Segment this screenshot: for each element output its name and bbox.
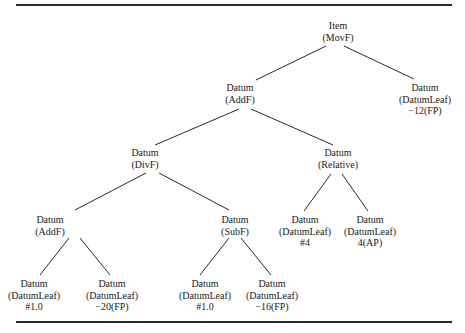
node-type: Datum	[380, 82, 465, 94]
node-datum-divf: Datum (DivF)	[100, 147, 190, 170]
node-datumleaf-4ap: Datum (DatumLeaf) 4(AP)	[325, 214, 415, 249]
node-type: Datum	[195, 82, 285, 94]
node-type: Datum	[227, 278, 317, 290]
edge-addf-relative	[251, 109, 333, 145]
node-class: (DatumLeaf)	[380, 94, 465, 106]
edge-relative-leaf-4	[304, 174, 331, 211]
edge-addf-divf	[155, 109, 239, 145]
edge-divf-subf	[159, 173, 229, 210]
node-type: Datum	[100, 147, 190, 159]
node-class: (Relative)	[293, 159, 383, 171]
node-type: Datum	[5, 214, 95, 226]
node-class: (DatumLeaf)	[227, 290, 317, 302]
node-class: (AddF)	[5, 226, 95, 238]
node-type: Datum	[67, 278, 157, 290]
node-datum-relative: Datum (Relative)	[293, 147, 383, 170]
node-value: −12(FP)	[380, 105, 465, 117]
node-datum-addf: Datum (AddF)	[195, 82, 285, 105]
node-class: (DivF)	[100, 159, 190, 171]
node-class: (AddF)	[195, 94, 285, 106]
node-class: (DatumLeaf)	[67, 290, 157, 302]
node-datumleaf-minus16fp: Datum (DatumLeaf) −16(FP)	[227, 278, 317, 313]
node-type: Item	[293, 20, 383, 32]
edge-addf-leaf-20fp	[80, 238, 110, 275]
node-type: Datum	[325, 214, 415, 226]
node-class: (MovF)	[293, 32, 383, 44]
edge-divf-addf	[75, 173, 146, 210]
node-value: −16(FP)	[227, 301, 317, 313]
node-item-movf: Item (MovF)	[293, 20, 383, 43]
node-value: −20(FP)	[67, 301, 157, 313]
edge-addf-leaf-1	[40, 238, 69, 275]
node-type: Datum	[293, 147, 383, 159]
node-datum-addf-inner: Datum (AddF)	[5, 214, 95, 237]
node-datumleaf-minus20fp: Datum (DatumLeaf) −20(FP)	[67, 278, 157, 313]
node-datumleaf-minus12fp: Datum (DatumLeaf) −12(FP)	[380, 82, 465, 117]
edge-movf-leaf-12fp	[344, 46, 414, 79]
edge-relative-leaf-4ap	[342, 174, 368, 211]
node-value: 4(AP)	[325, 237, 415, 249]
node-class: (DatumLeaf)	[325, 226, 415, 238]
edge-subf-leaf-1	[200, 238, 229, 275]
edge-movf-addf	[256, 46, 326, 80]
